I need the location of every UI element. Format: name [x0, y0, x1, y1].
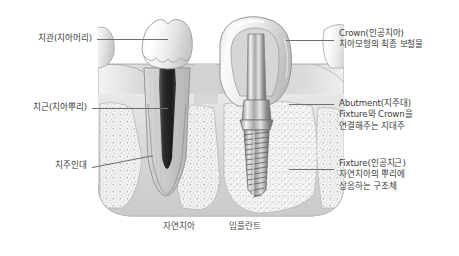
label-abutment-line-1: Abutment(지주대) [339, 98, 413, 109]
leader-line-crown-implant [286, 40, 334, 41]
label-crown-implant-line-2: 치아모형의 최종 보철물 [339, 39, 423, 50]
label-periodontal-ligament-line-1: 치주인대 [0, 160, 87, 171]
label-crown-natural-line-1: 치관(치아머리) [0, 33, 92, 44]
label-crown-implant-line-1: Crown(인공치아) [339, 28, 423, 39]
label-fixture-line-3: 상응하는 구조체 [339, 181, 406, 192]
label-root-natural-line-1: 치근(치아뿌리) [0, 102, 87, 113]
label-periodontal-ligament: 치주인대 [0, 160, 87, 171]
label-crown-implant: Crown(인공치아) 치아모형의 최종 보철물 [339, 28, 423, 51]
caption-implant: 임플란트 [229, 221, 261, 231]
caption-natural-tooth: 자연치아 [163, 221, 195, 231]
label-abutment-line-2: Fixture와 Crown을 [339, 109, 413, 120]
label-abutment-line-3: 연결해주는 지대주 [339, 121, 413, 132]
label-fixture-line-1: Fixture(인공치근) [339, 158, 406, 169]
leader-line-abutment [289, 104, 334, 105]
label-crown-natural: 치관(치아머리) [0, 33, 92, 44]
leader-line-fixture [289, 169, 334, 170]
label-abutment: Abutment(지주대) Fixture와 Crown을 연결해주는 지대주 [339, 98, 413, 132]
label-root-natural: 치근(치아뿌리) [0, 102, 87, 113]
implant-fixture [244, 130, 269, 197]
label-fixture-line-2: 자연치아의 뿌리에 [339, 169, 406, 180]
leader-line-root-natural [92, 108, 168, 109]
label-fixture: Fixture(인공치근) 자연치아의 뿌리에 상응하는 구조체 [339, 158, 406, 192]
dental-implant-diagram: 치관(치아머리) 치근(치아뿌리) 치주인대 Crown(인공치아) 치아모형의… [0, 0, 459, 256]
leader-line-crown-natural [97, 39, 168, 40]
adjacent-tooth-left [98, 27, 114, 68]
